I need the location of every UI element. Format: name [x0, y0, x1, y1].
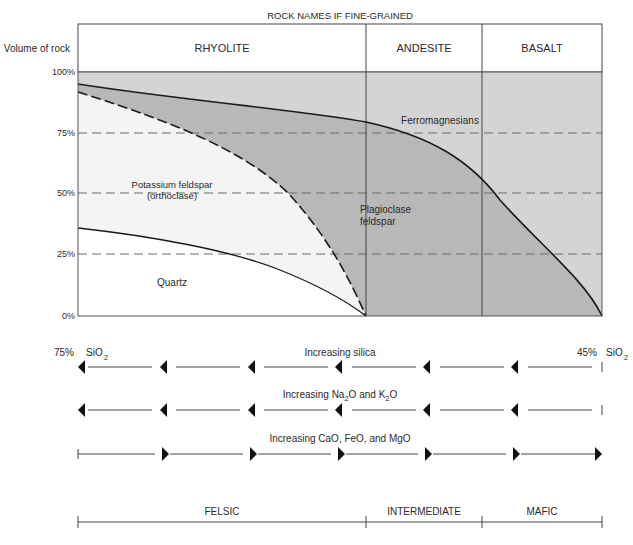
arrow-left-icon [160, 360, 167, 374]
arrow-left-icon [335, 403, 342, 417]
arrow-left-icon [511, 403, 518, 417]
silica-left-label: 75% SiO 2 [54, 347, 108, 362]
silica-right-pct: 45% [577, 347, 597, 358]
class-intermediate: INTERMEDIATE [387, 506, 461, 517]
silica-left-compound: SiO [86, 347, 103, 358]
y-axis-label: Volume of rock [4, 43, 71, 54]
label-potassium-line2: (orthoclase) [147, 190, 197, 201]
arrow-left-icon [423, 403, 430, 417]
composition-scale-bar [78, 516, 602, 528]
y-tick-25: 25% [57, 249, 75, 259]
arrow-left-icon [248, 403, 255, 417]
arrow-right-icon [425, 447, 432, 461]
rock-name-basalt: BASALT [521, 42, 563, 54]
label-plagioclase-line1: Plagioclase [360, 204, 412, 215]
class-felsic: FELSIC [204, 506, 239, 517]
y-tick-75: 75% [57, 128, 75, 138]
arrow-left-icon [335, 360, 342, 374]
silica-right-label: 45% SiO 2 [577, 347, 628, 362]
arrow-left-icon [78, 360, 85, 374]
trend-silica-label: Increasing silica [304, 347, 376, 358]
arrow-right-icon [250, 447, 257, 461]
label-plagioclase-line2: feldspar [360, 216, 396, 227]
trend-alkali-part: O and K [349, 389, 386, 400]
label-potassium-line1: Potassium feldspar [132, 179, 213, 190]
arrow-right-icon [513, 447, 520, 461]
label-ferromagnesians: Ferromagnesians [401, 115, 479, 126]
chart-title: ROCK NAMES IF FINE-GRAINED [267, 10, 413, 21]
arrow-left-icon [423, 360, 430, 374]
arrow-left-icon [248, 360, 255, 374]
y-tick-100: 100% [52, 67, 75, 77]
trend-mafic-oxides-label: Increasing CaO, FeO, and MgO [269, 433, 410, 444]
arrow-right-icon [162, 447, 169, 461]
y-ticks: 100% 75% 50% 25% 0% [52, 67, 75, 321]
trend-alkali-part: O [389, 389, 397, 400]
arrow-right-icon [338, 447, 345, 461]
y-tick-0: 0% [62, 311, 75, 321]
rock-name-rhyolite: RHYOLITE [194, 42, 249, 54]
silica-right-compound: SiO [606, 347, 623, 358]
arrow-left-icon [511, 360, 518, 374]
label-quartz: Quartz [157, 277, 187, 288]
rock-name-andesite: ANDESITE [396, 42, 451, 54]
arrow-right-icon [595, 447, 602, 461]
arrow-left-icon [160, 403, 167, 417]
silica-left-pct: 75% [54, 347, 74, 358]
igneous-rock-composition-diagram: ROCK NAMES IF FINE-GRAINED RHYOLITE ANDE… [0, 0, 633, 545]
y-tick-50: 50% [57, 188, 75, 198]
silica-right-subscript: 2 [624, 353, 628, 362]
trend-alkali-part: Increasing Na [283, 389, 345, 400]
class-mafic: MAFIC [526, 506, 557, 517]
arrow-left-icon [78, 403, 85, 417]
trend-alkali-label: Increasing Na2O and K2O [283, 389, 398, 403]
silica-left-subscript: 2 [104, 353, 108, 362]
